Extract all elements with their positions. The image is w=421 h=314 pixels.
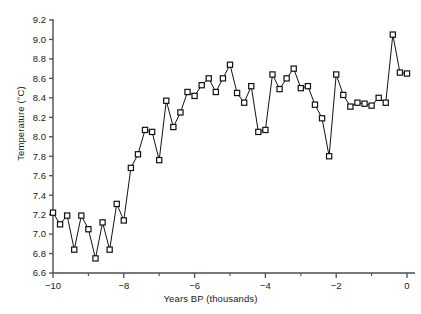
temperature-line-chart: 6.66.87.07.27.47.67.88.08.28.48.68.89.09… xyxy=(0,0,421,314)
y-axis-tick-labels: 6.66.87.07.27.47.67.88.08.28.48.68.89.09… xyxy=(33,14,46,278)
svg-text:8.0: 8.0 xyxy=(33,131,46,142)
svg-text:6.6: 6.6 xyxy=(33,267,46,278)
svg-text:7.2: 7.2 xyxy=(33,209,46,220)
svg-text:8.8: 8.8 xyxy=(33,53,46,64)
svg-text:−2: −2 xyxy=(331,280,342,291)
svg-text:0: 0 xyxy=(404,280,409,291)
svg-text:8.2: 8.2 xyxy=(33,112,46,123)
svg-text:7.4: 7.4 xyxy=(33,190,46,201)
chart-figure: Temperature (°C) Years BP (thousands) 6.… xyxy=(0,0,421,314)
svg-text:6.8: 6.8 xyxy=(33,248,46,259)
svg-text:8.4: 8.4 xyxy=(33,92,46,103)
x-axis-tick-labels: −10−8−6−4−20 xyxy=(45,280,410,291)
svg-text:7.6: 7.6 xyxy=(33,170,46,181)
axis-tick-marks xyxy=(49,20,407,278)
svg-text:9.0: 9.0 xyxy=(33,34,46,45)
svg-text:7.0: 7.0 xyxy=(33,228,46,239)
svg-text:7.8: 7.8 xyxy=(33,151,46,162)
data-point-markers xyxy=(50,32,409,261)
axis-lines xyxy=(53,19,415,273)
svg-text:8.6: 8.6 xyxy=(33,73,46,84)
svg-text:9.2: 9.2 xyxy=(33,14,46,25)
svg-text:−10: −10 xyxy=(45,280,61,291)
data-line xyxy=(53,35,407,259)
svg-text:−6: −6 xyxy=(189,280,200,291)
svg-text:−4: −4 xyxy=(260,280,271,291)
svg-text:−8: −8 xyxy=(118,280,129,291)
